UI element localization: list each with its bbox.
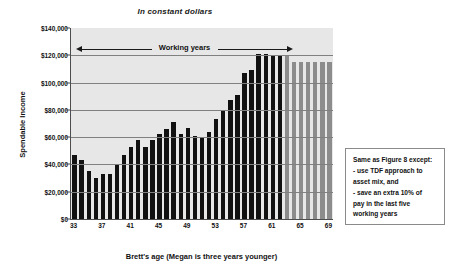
note-line: asset mix, and: [353, 177, 438, 188]
x-axis-tick-label: 37: [98, 222, 105, 229]
gridline: [71, 164, 333, 165]
x-axis-line: [70, 219, 333, 220]
y-axis-tick-label: $20,000: [4, 188, 68, 195]
bar: [249, 70, 253, 219]
gridline: [71, 137, 333, 138]
x-axis-tick-label: 49: [183, 222, 190, 229]
bar: [228, 100, 232, 219]
working-years-annotation: Working years: [76, 44, 293, 56]
bar: [200, 137, 204, 219]
arrow-left-icon: [76, 46, 82, 52]
bar: [164, 129, 168, 219]
bar: [292, 62, 296, 219]
bar: [320, 62, 324, 219]
note-line: pay in the last five: [353, 199, 438, 210]
bar: [101, 174, 105, 219]
bar: [179, 134, 183, 219]
note-line: Same as Figure 8 except:: [353, 155, 438, 166]
bar: [214, 119, 218, 219]
bar: [235, 95, 239, 219]
bar: [108, 174, 112, 219]
note-box: Same as Figure 8 except:- use TDF approa…: [345, 148, 445, 225]
y-axis-ticks: $0$20,000$40,000$60,000$80,000$100,000$1…: [0, 0, 68, 275]
x-axis-title: Brett's age (Megan is three years younge…: [70, 252, 333, 261]
bar: [143, 147, 147, 219]
bar: [79, 160, 83, 219]
x-axis-tick-label: 61: [268, 222, 275, 229]
bar: [193, 136, 197, 219]
x-axis-tick-label: 45: [155, 222, 162, 229]
chart-figure: In constant dollars Spendable Income $0$…: [0, 0, 455, 275]
note-line: - use TDF approach to: [353, 166, 438, 177]
plot-area: [70, 28, 333, 219]
bar: [136, 140, 140, 219]
y-axis-tick-label: $60,000: [4, 134, 68, 141]
bar: [150, 140, 154, 219]
x-axis-tick-label: 53: [212, 222, 219, 229]
note-line: working years: [353, 209, 438, 220]
working-years-label: Working years: [152, 43, 218, 52]
y-axis-tick-label: $0: [4, 216, 68, 223]
y-axis-tick-label: $80,000: [4, 106, 68, 113]
x-axis-tick-label: 69: [325, 222, 332, 229]
bar: [242, 73, 246, 219]
x-axis-tick-label: 65: [297, 222, 304, 229]
gridline: [71, 110, 333, 111]
arrow-right-icon: [287, 46, 293, 52]
y-axis-tick-label: $120,000: [4, 52, 68, 59]
bar: [313, 62, 317, 219]
bar: [157, 134, 161, 219]
bar: [207, 132, 211, 219]
bar: [299, 62, 303, 219]
note-line: - save an extra 10% of: [353, 188, 438, 199]
bar: [87, 171, 91, 219]
y-axis-tick-label: $140,000: [4, 25, 68, 32]
bar: [186, 128, 190, 219]
y-axis-tick-label: $100,000: [4, 79, 68, 86]
x-axis-tick-label: 33: [70, 222, 77, 229]
x-axis-tick-label: 57: [240, 222, 247, 229]
gridline: [71, 192, 333, 193]
x-axis-tick-label: 41: [127, 222, 134, 229]
bar: [94, 178, 98, 219]
bar-series: [71, 28, 333, 219]
bar: [327, 62, 331, 219]
gridline: [71, 83, 333, 84]
bar: [129, 147, 133, 219]
y-axis-tick-label: $40,000: [4, 161, 68, 168]
bar: [306, 62, 310, 219]
